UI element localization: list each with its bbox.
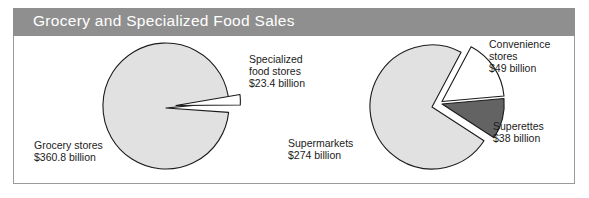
label-convenience-stores: Convenience stores $49 billion — [489, 38, 550, 75]
label-grocery-line1: Grocery stores — [34, 139, 103, 151]
label-convenience-line3: $49 billion — [489, 62, 550, 74]
label-specialized-line3: $23.4 billion — [249, 77, 305, 89]
figure-panel: Grocery and Specialized Food Sales Speci… — [0, 0, 589, 198]
label-superettes-line1: Superettes — [493, 120, 544, 132]
label-supermarkets-line1: Supermarkets — [288, 137, 353, 149]
label-specialized-food-stores: Specialized food stores $23.4 billion — [249, 53, 305, 90]
pie-slice-grocery-stores — [103, 43, 229, 169]
label-supermarkets: Supermarkets $274 billion — [288, 137, 353, 161]
label-superettes-line2: $38 billion — [493, 132, 544, 144]
pie-charts-svg — [0, 0, 589, 198]
label-superettes: Superettes $38 billion — [493, 120, 544, 144]
label-grocery-line2: $360.8 billion — [34, 151, 103, 163]
supermarket-pie — [370, 45, 504, 169]
label-grocery-stores: Grocery stores $360.8 billion — [34, 139, 103, 163]
label-specialized-line1: Specialized — [249, 53, 305, 65]
label-supermarkets-line2: $274 billion — [288, 149, 353, 161]
label-convenience-line1: Convenience — [489, 38, 550, 50]
label-convenience-line2: stores — [489, 50, 550, 62]
label-specialized-line2: food stores — [249, 65, 305, 77]
grocery-pie — [103, 43, 240, 169]
